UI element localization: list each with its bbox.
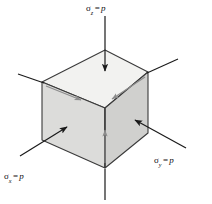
stress-element-figure: σz=p σx=p σy=p xyxy=(0,0,212,204)
sigma-z-subscript: z xyxy=(91,9,94,16)
label-sigma-z: σz=p xyxy=(86,4,106,15)
sigma-z-equals: = xyxy=(94,3,101,13)
sigma-x-value: p xyxy=(19,171,24,181)
label-sigma-y: σy=p xyxy=(154,156,174,167)
sigma-y-value: p xyxy=(169,155,174,165)
sigma-y-subscript: y xyxy=(159,161,162,168)
stress-element-diagram-canvas xyxy=(0,0,212,204)
leader-line-upper-left xyxy=(18,74,44,83)
leader-line-upper-right xyxy=(147,59,178,73)
cube-body xyxy=(42,50,148,168)
label-sigma-x: σx=p xyxy=(4,172,24,183)
sigma-x-subscript: x xyxy=(9,177,12,184)
sigma-z-value: p xyxy=(101,3,106,13)
